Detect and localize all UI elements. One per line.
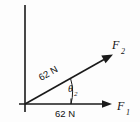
horizontal-magnitude-label: 62 N [55, 108, 75, 119]
f1-arrowhead [102, 100, 112, 108]
theta-label-subscript: 2 [74, 90, 78, 98]
diagram-canvas: F 2 F 1 θ 2 62 N 62 N [0, 0, 140, 122]
f2-label-subscript: 2 [121, 47, 125, 56]
f1-label: F [116, 99, 125, 113]
theta-label: θ [68, 83, 73, 94]
diagonal-magnitude-label: 62 N [36, 63, 59, 83]
force-vector-diagram: F 2 F 1 θ 2 62 N 62 N [0, 0, 140, 122]
f1-label-subscript: 1 [126, 108, 130, 117]
f2-arrowhead [101, 55, 113, 64]
diagonal-magnitude-group: 62 N [36, 63, 59, 83]
f2-vector-line [25, 60, 104, 105]
f2-label: F [111, 38, 120, 52]
